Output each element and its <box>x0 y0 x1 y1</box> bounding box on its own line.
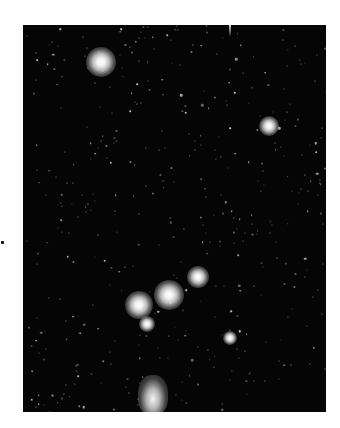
small-star <box>109 161 112 164</box>
small-star <box>38 394 40 396</box>
small-star <box>84 55 85 56</box>
small-star <box>174 181 175 182</box>
small-star <box>216 285 217 286</box>
small-star <box>249 373 250 374</box>
small-star <box>110 86 111 87</box>
small-star <box>134 101 135 102</box>
small-star <box>170 218 171 219</box>
small-star <box>183 228 184 229</box>
small-star <box>73 182 74 183</box>
small-star <box>261 163 262 164</box>
small-star <box>200 301 201 302</box>
small-star <box>287 176 289 178</box>
small-star <box>228 167 229 168</box>
small-star <box>203 91 204 92</box>
small-star <box>44 359 45 360</box>
small-star <box>83 37 84 38</box>
small-star <box>304 175 305 176</box>
small-star <box>171 168 172 169</box>
small-star <box>320 184 322 186</box>
small-star <box>61 76 62 77</box>
small-star <box>312 297 313 298</box>
small-star <box>158 244 159 245</box>
small-star <box>209 359 211 361</box>
small-star <box>121 29 123 31</box>
small-star <box>44 405 45 406</box>
small-star <box>284 155 285 156</box>
small-star <box>95 201 96 202</box>
small-star <box>110 267 112 269</box>
small-star <box>202 225 203 226</box>
small-star <box>252 234 253 235</box>
small-star <box>47 64 49 66</box>
small-star <box>40 332 43 335</box>
small-star <box>261 262 262 263</box>
small-star <box>322 128 323 129</box>
small-star <box>133 196 135 198</box>
small-star <box>238 254 240 256</box>
small-star <box>26 35 27 36</box>
small-star <box>94 83 95 84</box>
small-star <box>235 58 238 61</box>
small-star <box>93 304 94 305</box>
small-star <box>275 142 276 143</box>
small-star <box>191 359 194 362</box>
small-star <box>224 201 227 204</box>
small-star <box>127 379 128 380</box>
small-star <box>186 289 188 291</box>
small-star <box>139 357 141 359</box>
small-star <box>121 290 123 292</box>
small-star <box>201 104 204 107</box>
small-star <box>215 356 216 357</box>
small-star <box>205 197 206 198</box>
small-star <box>162 94 164 96</box>
small-star <box>233 91 236 94</box>
small-star <box>297 119 298 120</box>
small-star <box>129 393 130 394</box>
small-star <box>253 56 255 58</box>
small-star <box>223 285 224 286</box>
small-star <box>240 45 242 47</box>
small-star <box>137 84 139 86</box>
small-star <box>284 89 285 90</box>
small-star <box>66 338 68 340</box>
small-star <box>131 92 133 94</box>
small-star <box>54 69 55 70</box>
small-star <box>77 216 78 217</box>
small-star <box>304 63 305 64</box>
small-star <box>320 137 321 138</box>
small-star <box>64 59 65 60</box>
small-star <box>110 363 111 364</box>
small-star <box>60 203 61 204</box>
small-star <box>97 328 99 330</box>
small-star <box>73 164 75 166</box>
small-star <box>264 185 265 186</box>
small-star <box>234 242 235 243</box>
small-star <box>149 90 150 91</box>
small-star <box>88 203 89 204</box>
small-star <box>268 85 269 86</box>
small-star <box>252 223 253 224</box>
small-star <box>231 310 233 312</box>
small-star <box>201 179 203 181</box>
small-star <box>109 285 110 286</box>
small-star <box>52 42 53 43</box>
small-star <box>36 53 37 54</box>
small-star <box>146 335 147 336</box>
small-star <box>57 402 59 404</box>
small-star <box>322 264 323 265</box>
small-star <box>236 348 237 349</box>
small-star <box>222 404 223 405</box>
small-star <box>188 134 189 135</box>
small-star <box>100 140 101 141</box>
small-star <box>284 284 285 285</box>
small-star <box>177 29 178 30</box>
small-star <box>325 92 326 93</box>
small-star <box>324 48 325 49</box>
small-star <box>52 395 53 396</box>
small-star <box>244 232 245 233</box>
small-star <box>143 27 144 28</box>
small-star <box>275 149 277 151</box>
small-star <box>113 142 114 143</box>
small-star <box>164 147 165 148</box>
